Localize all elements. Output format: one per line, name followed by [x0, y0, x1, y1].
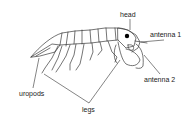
- label-antenna-2: antenna 2: [144, 76, 175, 83]
- amphipod-diagram: head antenna 1 antenna 2 uropods legs: [0, 0, 192, 121]
- legs-shape: [42, 41, 117, 73]
- body-outline: [31, 28, 140, 57]
- antenna1-leader: [141, 40, 164, 42]
- antenna-2: [136, 44, 143, 68]
- label-antenna-1: antenna 1: [150, 31, 181, 38]
- label-uropods: uropods: [19, 90, 45, 98]
- label-head: head: [120, 11, 136, 18]
- antenna2-leader: [144, 55, 160, 74]
- uropods-leader: [33, 58, 39, 88]
- body-segments: [60, 28, 118, 46]
- label-legs: legs: [82, 106, 95, 114]
- gnathopod: [118, 42, 140, 66]
- amphipod-body: [31, 28, 147, 73]
- legs-leader: [44, 60, 120, 103]
- eye: [125, 34, 129, 38]
